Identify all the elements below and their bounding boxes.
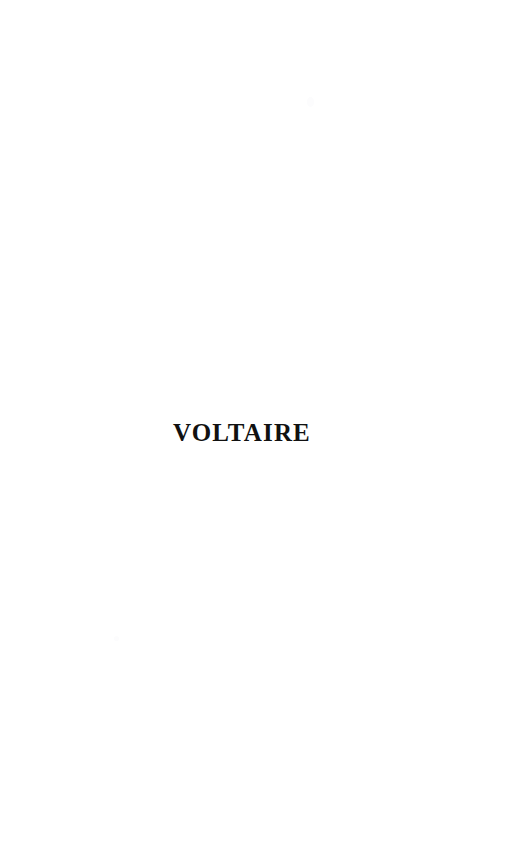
author-name: VOLTAIRE bbox=[173, 420, 311, 445]
title-block: VOLTAIRE bbox=[0, 420, 516, 445]
scan-speck-bottom-icon bbox=[114, 636, 119, 641]
book-page: VOLTAIRE bbox=[0, 0, 516, 858]
scan-speck-top-icon bbox=[307, 97, 314, 107]
